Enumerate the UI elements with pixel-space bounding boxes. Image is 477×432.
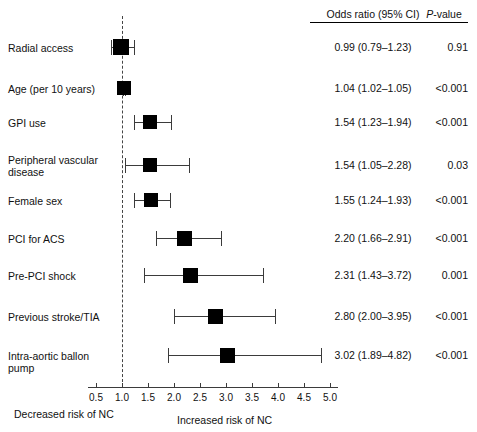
forest-plot-figure: Odds ratio (95% CI) P-value Radial acces… xyxy=(0,0,477,432)
p-value-cell: <0.001 xyxy=(412,310,468,322)
x-axis-tick xyxy=(278,383,279,387)
p-value-cell: 0.001 xyxy=(412,269,468,281)
decreased-risk-caption: Decreased risk of NC xyxy=(14,408,114,420)
p-value-cell: <0.001 xyxy=(412,82,468,94)
confidence-interval-line xyxy=(144,275,263,276)
x-axis-line xyxy=(88,387,338,388)
ci-upper-cap xyxy=(263,268,264,283)
p-value-cell: 0.91 xyxy=(412,41,468,53)
ci-lower-cap xyxy=(134,193,135,208)
x-axis-tick xyxy=(252,383,253,387)
x-axis-tick xyxy=(226,383,227,387)
ci-lower-cap xyxy=(125,158,126,173)
row-label: Age (per 10 years) xyxy=(8,83,112,95)
x-axis-tick xyxy=(330,383,331,387)
point-estimate-marker xyxy=(208,309,223,324)
p-value-cell: <0.001 xyxy=(412,116,468,128)
point-estimate-marker xyxy=(220,348,235,363)
ci-lower-cap xyxy=(174,309,175,324)
row-label: Female sex xyxy=(8,195,112,207)
point-estimate-marker xyxy=(113,39,129,55)
x-axis-tick-label: 5.0 xyxy=(313,392,347,403)
x-axis-tick xyxy=(148,383,149,387)
x-axis-tick xyxy=(96,383,97,387)
point-estimate-marker xyxy=(177,231,192,246)
ci-upper-cap xyxy=(221,231,222,246)
x-axis-tick xyxy=(174,383,175,387)
plot-area: Radial access0.99 (0.79–1.23)0.91Age (pe… xyxy=(0,0,477,432)
p-value-cell: 0.03 xyxy=(412,159,468,171)
row-label: Intra-aortic ballon pump xyxy=(8,350,112,374)
point-estimate-marker xyxy=(183,268,198,283)
row-label: Radial access xyxy=(8,42,112,54)
row-label: Pre-PCI shock xyxy=(8,270,112,282)
point-estimate-marker xyxy=(144,193,158,207)
row-label: GPI use xyxy=(8,117,112,129)
row-label: PCI for ACS xyxy=(8,233,112,245)
point-estimate-marker xyxy=(117,81,131,95)
p-value-cell: <0.001 xyxy=(412,194,468,206)
point-estimate-marker xyxy=(143,158,157,172)
ci-upper-cap xyxy=(189,158,190,173)
increased-risk-caption: Increased risk of NC xyxy=(177,414,272,426)
x-axis-tick xyxy=(122,383,123,387)
ci-lower-cap xyxy=(144,268,145,283)
ci-upper-cap xyxy=(170,193,171,208)
x-axis-tick xyxy=(304,383,305,387)
point-estimate-marker xyxy=(143,115,157,129)
ci-upper-cap xyxy=(275,309,276,324)
confidence-interval-line xyxy=(174,316,275,317)
confidence-interval-line xyxy=(168,355,320,356)
row-label: Peripheral vascular disease xyxy=(8,154,112,178)
ci-lower-cap xyxy=(156,231,157,246)
row-label: Previous stroke/TIA xyxy=(8,311,112,323)
ci-upper-cap xyxy=(171,115,172,130)
reference-line-or-1 xyxy=(122,16,123,387)
p-value-cell: <0.001 xyxy=(412,349,468,361)
x-axis-tick xyxy=(200,383,201,387)
p-value-cell: <0.001 xyxy=(412,232,468,244)
ci-lower-cap xyxy=(134,115,135,130)
ci-upper-cap xyxy=(134,40,135,55)
ci-lower-cap xyxy=(168,348,169,363)
